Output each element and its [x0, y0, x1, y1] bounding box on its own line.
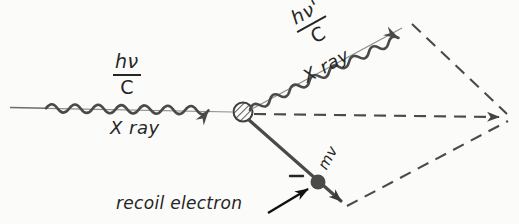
recoil-electron-dot: [311, 175, 326, 190]
incident-photon-denominator: C: [113, 78, 141, 98]
incident-xray-label: X ray: [110, 119, 160, 137]
compton-scattering-diagram: hν C X ray hν' C X ray mv recoil electro…: [0, 0, 519, 224]
resultant-momentum-dashed-arrow: [254, 114, 499, 117]
incident-photon-numerator: hν: [113, 52, 141, 73]
incident-ray-guide-line: [10, 108, 46, 109]
incident-photon-momentum-label: hν C: [113, 52, 141, 98]
momentum-parallelogram: [254, 24, 508, 206]
parallelogram-side-bottom: [347, 121, 508, 206]
diagram-canvas: [0, 0, 519, 224]
incident-photon-ray: [10, 104, 232, 114]
parallelogram-side-top: [412, 24, 507, 114]
recoil-electron-caption: recoil electron: [116, 195, 242, 212]
recoil-electron-pointer-arrow: [268, 189, 308, 213]
